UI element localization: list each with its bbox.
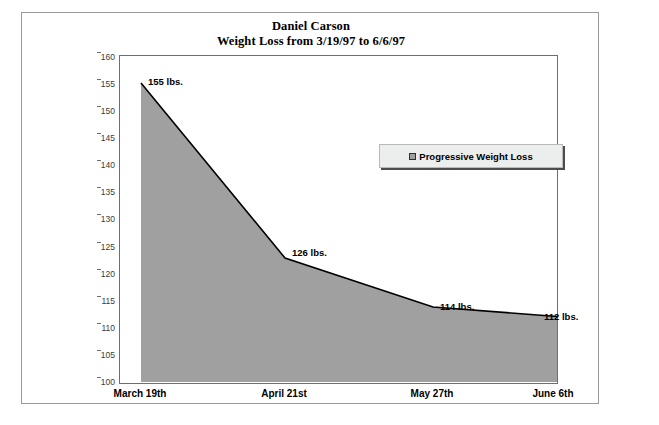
y-tick-label-140: 140 bbox=[101, 160, 115, 170]
legend-entry-label: Progressive Weight Loss bbox=[419, 151, 532, 162]
page-title: Daniel Carson bbox=[22, 19, 600, 34]
x-axis-label-april-21st: April 21st bbox=[261, 388, 307, 399]
y-tick-label-150: 150 bbox=[101, 106, 115, 116]
chart-legend[interactable]: Progressive Weight Loss bbox=[379, 144, 563, 168]
x-axis-label-may-27th: May 27th bbox=[411, 388, 454, 399]
chart-title-block: Daniel Carson Weight Loss from 3/19/97 t… bbox=[22, 19, 600, 49]
y-tick-label-120: 120 bbox=[101, 269, 115, 279]
legend-swatch-icon bbox=[409, 153, 416, 160]
y-tick-label-160: 160 bbox=[101, 52, 115, 62]
area-chart-series bbox=[120, 56, 557, 383]
y-tick-label-125: 125 bbox=[101, 242, 115, 252]
point-label-march-19th: 155 lbs. bbox=[148, 76, 183, 87]
y-tick-label-100: 100 bbox=[101, 377, 115, 387]
point-label-april-21st: 126 lbs. bbox=[292, 247, 327, 258]
weight-loss-area-fill bbox=[141, 83, 557, 382]
y-tick-label-110: 110 bbox=[101, 323, 115, 333]
y-tick-label-145: 145 bbox=[101, 133, 115, 143]
point-label-may-27th: 114 lbs. bbox=[440, 301, 474, 312]
y-tick-label-135: 135 bbox=[101, 187, 115, 197]
y-tick-label-115: 115 bbox=[101, 296, 115, 306]
point-label-june-6th: 112 lbs. bbox=[544, 311, 578, 322]
x-axis-label-march-19th: March 19th bbox=[114, 388, 167, 399]
x-axis-label-june-6th: June 6th bbox=[532, 388, 573, 399]
y-tick-label-155: 155 bbox=[101, 79, 115, 89]
chart-page-frame: Daniel Carson Weight Loss from 3/19/97 t… bbox=[21, 12, 599, 404]
y-tick-label-130: 130 bbox=[101, 214, 115, 224]
y-tick-label-105: 105 bbox=[101, 350, 115, 360]
plot-area: 160 155 150 145 140 135 130 125 120 115 … bbox=[119, 55, 558, 384]
chart-subtitle: Weight Loss from 3/19/97 to 6/6/97 bbox=[22, 34, 600, 49]
